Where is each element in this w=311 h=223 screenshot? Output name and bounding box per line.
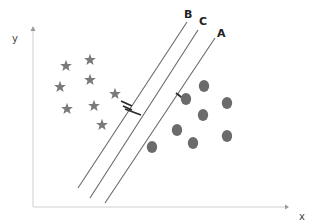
y-axis-arrow-icon bbox=[31, 26, 36, 31]
margin-marker-b bbox=[121, 101, 132, 106]
x-axis-arrow-icon bbox=[285, 205, 289, 210]
hyperplane-label-c: C bbox=[199, 15, 207, 28]
x-axis-label: x bbox=[299, 211, 305, 222]
circle-point-icon bbox=[199, 80, 209, 92]
margin-markers bbox=[121, 93, 185, 115]
circle-point-icon bbox=[181, 93, 191, 105]
diagram-canvas: y x BCA bbox=[0, 0, 311, 223]
circle-point-icon bbox=[222, 97, 232, 109]
star-point-icon bbox=[84, 54, 96, 65]
star-class-points bbox=[54, 54, 121, 130]
star-point-icon bbox=[109, 88, 121, 99]
star-point-icon bbox=[88, 100, 100, 111]
circle-point-icon bbox=[222, 130, 232, 142]
star-point-icon bbox=[96, 119, 108, 130]
star-point-icon bbox=[61, 103, 73, 114]
hyperplane-label-a: A bbox=[217, 27, 226, 40]
circle-point-icon bbox=[198, 109, 208, 121]
circle-point-icon bbox=[172, 124, 182, 136]
axes: y x bbox=[12, 26, 305, 222]
hyperplane-c bbox=[90, 30, 198, 198]
y-axis-label: y bbox=[12, 33, 18, 44]
circle-point-icon bbox=[188, 137, 198, 149]
svm-diagram: y x BCA bbox=[0, 0, 311, 223]
hyperplanes: BCA bbox=[78, 8, 226, 203]
circle-class-points bbox=[147, 80, 232, 153]
star-point-icon bbox=[60, 60, 72, 71]
star-point-icon bbox=[54, 81, 66, 92]
circle-point-icon bbox=[147, 141, 157, 153]
star-point-icon bbox=[84, 74, 96, 85]
hyperplane-label-b: B bbox=[184, 8, 192, 21]
